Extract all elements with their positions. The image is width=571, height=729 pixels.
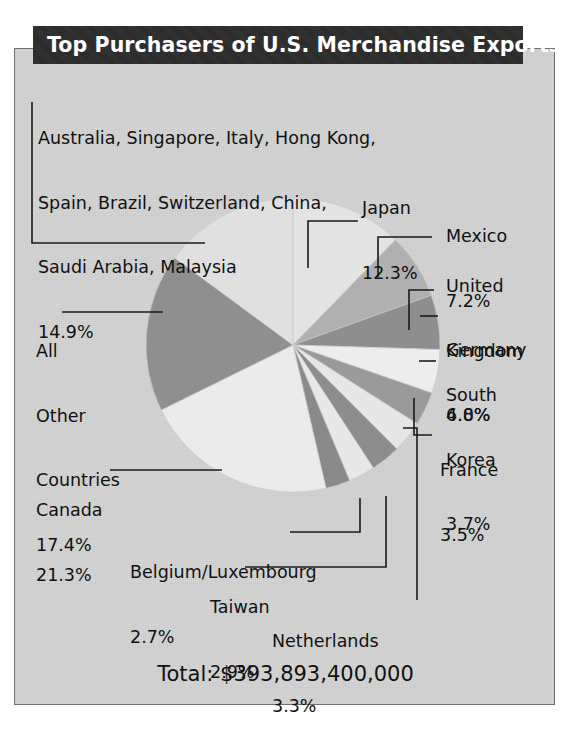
label-france-pct: 3.5% bbox=[440, 525, 498, 547]
label-group-other-named-line1: Australia, Singapore, Italy, Hong Kong, bbox=[38, 128, 376, 150]
label-japan-pct: 12.3% bbox=[362, 263, 418, 285]
label-france: France 3.5% bbox=[440, 417, 498, 589]
label-taiwan-name: Taiwan bbox=[210, 597, 270, 619]
label-taiwan: Taiwan 2.9% bbox=[210, 554, 270, 726]
label-netherlands: Netherlands 3.3% bbox=[272, 588, 379, 729]
label-south-korea-line1: South bbox=[446, 385, 497, 407]
label-canada-pct: 21.3% bbox=[36, 565, 103, 587]
total-label: Total: $393,893,400,000 bbox=[0, 662, 571, 686]
label-japan-name: Japan bbox=[362, 198, 418, 220]
pie-chart-figure: Top Purchasers of U.S. Merchandise Expor… bbox=[0, 0, 571, 729]
label-all-other-countries-line2: Other bbox=[36, 406, 120, 428]
chart-title-bar: Top Purchasers of U.S. Merchandise Expor… bbox=[33, 26, 523, 64]
label-canada-name: Canada bbox=[36, 500, 103, 522]
label-netherlands-name: Netherlands bbox=[272, 631, 379, 653]
label-canada: Canada 21.3% bbox=[36, 457, 103, 629]
label-group-other-named-line3: Saudi Arabia, Malaysia bbox=[38, 257, 376, 279]
label-united-kingdom-line1: United bbox=[446, 276, 523, 298]
label-group-other-named-line2: Spain, Brazil, Switzerland, China, bbox=[38, 193, 376, 215]
page-title: Top Purchasers of U.S. Merchandise Expor… bbox=[33, 33, 561, 57]
label-netherlands-pct: 3.3% bbox=[272, 696, 379, 718]
label-japan: Japan 12.3% bbox=[362, 155, 418, 327]
label-france-name: France bbox=[440, 460, 498, 482]
label-all-other-countries-line1: All bbox=[36, 341, 120, 363]
